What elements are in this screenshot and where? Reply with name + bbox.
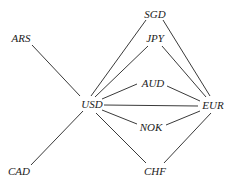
node-nok: NOK [139, 121, 163, 133]
edge-chf-eur [164, 113, 211, 163]
node-cad: CAD [8, 165, 30, 177]
edge-cad-usd [31, 111, 83, 165]
edges [31, 20, 211, 165]
edge-usd-sgd [91, 20, 146, 96]
edge-sgd-eur [163, 20, 210, 96]
edge-usd-nok [102, 110, 137, 124]
edge-aud-eur [167, 86, 200, 101]
edge-nok-eur [166, 111, 200, 125]
node-usd: USD [81, 98, 102, 110]
node-aud: AUD [141, 77, 165, 89]
node-jpy: JPY [146, 32, 166, 44]
node-ars: ARS [11, 32, 31, 44]
node-eur: EUR [201, 99, 224, 111]
node-chf: CHF [144, 165, 166, 177]
edge-usd-chf [96, 113, 146, 163]
edge-usd-aud [102, 84, 137, 99]
edge-usd-eur [104, 105, 198, 106]
currency-graph: SGDJPYARSAUDUSDEURNOKCADCHF [0, 0, 233, 188]
nodes: SGDJPYARSAUDUSDEURNOKCADCHF [8, 8, 224, 177]
edge-ars-usd [32, 45, 80, 96]
node-sgd: SGD [144, 8, 165, 20]
